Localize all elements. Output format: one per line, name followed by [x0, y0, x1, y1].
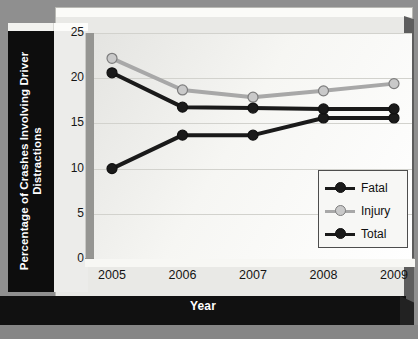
y-axis-tick-label: 20	[54, 70, 84, 84]
series-line-fatal	[112, 118, 394, 169]
legend-label: Fatal	[361, 181, 388, 195]
x-axis-wall	[85, 258, 415, 267]
data-point-total	[319, 104, 329, 114]
y-axis-tick-label: 25	[54, 25, 84, 39]
legend-marker-fatal-icon	[325, 182, 355, 194]
image-bottom-shade	[0, 325, 418, 339]
legend-label: Injury	[361, 204, 390, 218]
legend-item-injury: Injury	[325, 200, 390, 222]
chart-image: Percentage of Crashes Involving Driver D…	[0, 0, 418, 339]
legend-marker-total-icon	[325, 228, 355, 240]
data-point-total	[178, 102, 188, 112]
y-axis-title: Percentage of Crashes Involving Driver D…	[8, 30, 54, 292]
legend-label: Total	[361, 227, 386, 241]
legend-dot	[335, 228, 346, 239]
y-axis-tick-label: 15	[54, 115, 84, 129]
y-axis-tick-label: 10	[54, 161, 84, 175]
data-point-injury	[107, 53, 117, 63]
x-axis-tick-label: 2009	[364, 268, 418, 282]
y-axis-tick-label: 0	[54, 251, 84, 265]
data-point-total	[248, 103, 258, 113]
data-point-injury	[178, 85, 188, 95]
data-point-injury	[389, 79, 399, 89]
x-axis-tick-label: 2005	[82, 268, 142, 282]
x-axis-tick-label: 2008	[294, 268, 354, 282]
chart-plate-top-bevel	[56, 8, 412, 17]
x-axis-title: Year	[0, 299, 406, 313]
legend-item-total: Total	[325, 223, 386, 245]
data-point-injury	[319, 86, 329, 96]
data-point-fatal	[178, 130, 188, 140]
legend-item-fatal: Fatal	[325, 177, 388, 199]
legend-dot	[335, 182, 346, 193]
x-axis-tick-label: 2007	[223, 268, 283, 282]
data-point-fatal	[107, 164, 117, 174]
data-point-fatal	[248, 130, 258, 140]
y-axis-tick-label: 5	[54, 206, 84, 220]
data-point-injury	[248, 92, 258, 102]
legend: FatalInjuryTotal	[318, 170, 408, 248]
legend-marker-injury-icon	[325, 205, 355, 217]
x-axis-tick-label: 2006	[153, 268, 213, 282]
legend-dot	[335, 205, 346, 216]
data-point-total	[107, 68, 117, 78]
data-point-total	[389, 104, 399, 114]
